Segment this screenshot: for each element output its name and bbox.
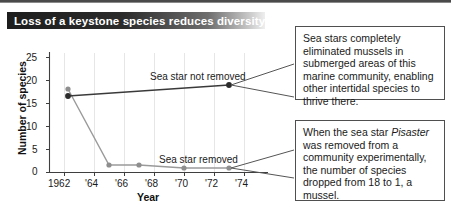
y-tick-label-0: 0 (32, 166, 38, 177)
leader-line-bottom-callout (231, 150, 294, 178)
callout-bottom: When the sea star Pisaster was removed f… (295, 120, 445, 201)
callout-bottom-part1: When the sea star (303, 126, 391, 138)
x-tick-label-1970: '70 (175, 178, 188, 189)
callout-bottom-species-name: Pisaster (391, 126, 429, 138)
x-tick-label-1962: 1962 (48, 178, 70, 189)
sea-star-removed-label: Sea star removed (159, 154, 238, 165)
callout-top: Sea stars completely eliminated mussels … (295, 26, 445, 100)
x-axis-title: Year (137, 191, 159, 203)
sea-star-not-removed-label: Sea star not removed (150, 71, 246, 82)
y-axis-title: Number of species (16, 61, 28, 155)
x-tick-label-1966: '66 (115, 178, 128, 189)
x-tick-label-1972: '72 (205, 178, 218, 189)
callout-top-text: Sea stars completely eliminated mussels … (303, 32, 437, 108)
x-tick-label-1964: '64 (85, 178, 98, 189)
callout-bottom-text: When the sea star Pisaster was removed f… (303, 126, 437, 202)
x-tick-label-1968: '68 (145, 178, 158, 189)
y-tick-label-5: 5 (32, 144, 38, 155)
x-tick-label-1974: '74 (235, 178, 248, 189)
series-sea-star-not-removed (65, 82, 232, 99)
callout-bottom-part2: was removed from a community experimenta… (303, 139, 427, 201)
figure-container: Loss of a keystone species reduces diver… (0, 0, 451, 210)
